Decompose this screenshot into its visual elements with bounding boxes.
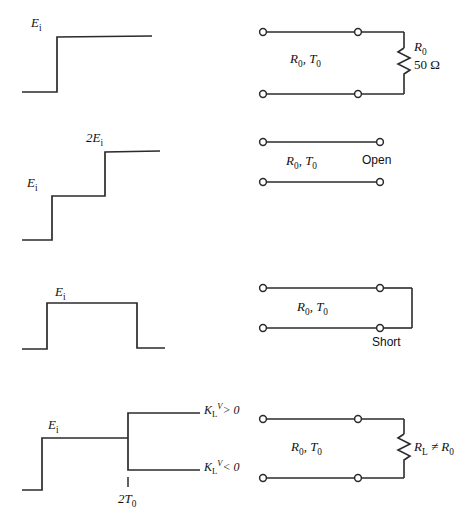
terminal-node [377,139,384,146]
terminal-node [260,139,267,146]
step-waveform-matched [22,36,152,92]
circuit-matched-load [260,29,410,98]
terminal-node [377,179,384,186]
terminal-node [355,475,362,482]
circuit-mismatched-load [260,416,410,482]
line-label-row4: R0, T0 [291,440,322,457]
terminal-node [377,325,384,332]
load-label-50ohm-row1: 50 Ω [414,58,440,71]
terminal-node [260,325,267,332]
time-label-2t0: 2T0 [118,492,136,509]
terminal-node [377,285,384,292]
terminal-node [355,29,362,36]
waveform-label-ei-row2: Ei [27,176,38,193]
transmission-line-figure [0,0,466,514]
line-label-row1: R0, T0 [290,52,321,69]
line-label-row3: R0, T0 [297,300,328,317]
waveform-label-ei-row1: Ei [31,16,42,33]
load-label-rl-row4: RL ≠ R0 [414,440,454,457]
waveform-label-ei-row4: Ei [48,418,59,435]
terminal-node [260,179,267,186]
reflection-coefficient-negative: KLV< 0 [204,460,240,476]
terminal-node [260,29,267,36]
double-step-waveform-open [22,151,160,240]
waveform-label-2ei-row2: 2Ei [86,131,103,148]
circuit-short [260,285,412,332]
load-label-short-row3: Short [372,336,401,348]
terminal-node [260,91,267,98]
terminal-node [260,416,267,423]
load-label-open-row2: Open [362,154,391,166]
waveform-label-ei-row3: Ei [55,285,66,302]
reflection-coefficient-positive: KLV> 0 [204,403,240,419]
terminal-node [260,285,267,292]
load-label-r0-row1: R0 [414,40,427,57]
terminal-node [355,416,362,423]
terminal-node [260,475,267,482]
line-label-row2: R0, T0 [286,154,317,171]
terminal-node [355,91,362,98]
pulse-waveform-short [22,303,165,349]
